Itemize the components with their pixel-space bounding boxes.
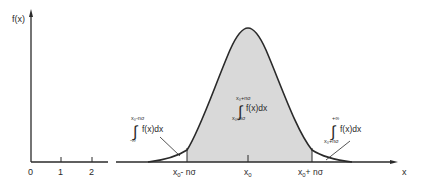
svg-text:-∞: -∞ bbox=[130, 137, 136, 143]
tick-label-2: 2 bbox=[89, 167, 94, 177]
svg-text:f(x)dx: f(x)dx bbox=[142, 124, 164, 134]
right-bound-label: x0+ nσ bbox=[298, 167, 324, 178]
x-axis-label: x bbox=[402, 167, 407, 177]
svg-text:x₀-nσ: x₀-nσ bbox=[131, 115, 145, 121]
normal-distribution-diagram: f(x) x 0 1 2 x0- nσ x0 x0+ nσ x₀-nσ ∫ f(… bbox=[0, 0, 421, 185]
svg-text:+∞: +∞ bbox=[332, 115, 339, 121]
left-tail-integral: x₀-nσ ∫ f(x)dx -∞ bbox=[130, 115, 164, 143]
svg-text:f(x)dx: f(x)dx bbox=[340, 124, 362, 134]
y-axis-label: f(x) bbox=[12, 14, 25, 24]
x-axis-arrow-icon bbox=[390, 160, 398, 164]
left-tail-leader bbox=[160, 137, 180, 156]
center-label: x0 bbox=[244, 167, 252, 178]
left-bound-label: x0- nσ bbox=[173, 167, 197, 178]
svg-text:x₀+nσ: x₀+nσ bbox=[324, 138, 339, 144]
right-tail-integral: +∞ ∫ f(x)dx x₀+nσ bbox=[324, 115, 362, 144]
svg-text:f(x)dx: f(x)dx bbox=[246, 103, 268, 113]
y-axis-arrow-icon bbox=[29, 9, 33, 17]
svg-text:x₀+nσ: x₀+nσ bbox=[236, 95, 251, 101]
tick-label-1: 1 bbox=[58, 167, 63, 177]
tick-label-0: 0 bbox=[28, 167, 33, 177]
svg-text:x₀-nσ: x₀-nσ bbox=[232, 115, 246, 121]
